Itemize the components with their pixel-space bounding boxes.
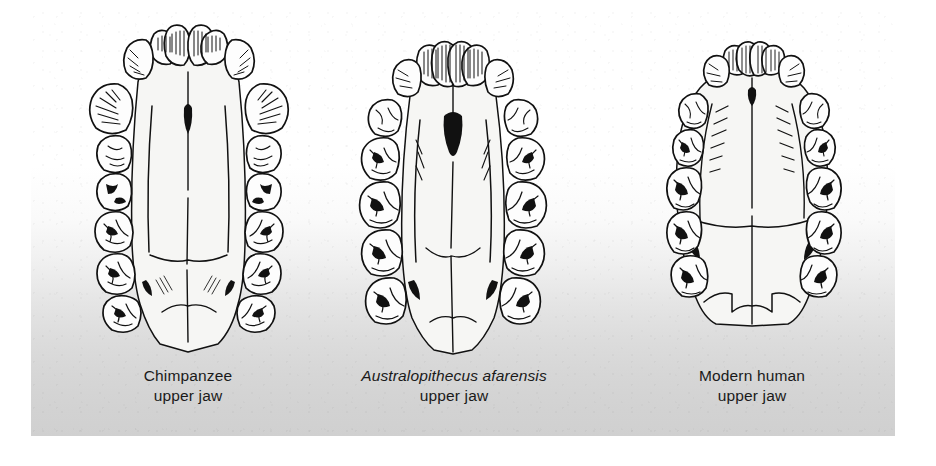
caption-australopithecus-afarensis-secondary: upper jaw: [318, 386, 590, 406]
jaw-illustration-chimpanzee: [72, 12, 304, 357]
caption-chimpanzee-primary: Chimpanzee: [78, 366, 298, 386]
figure-root: Chimpanzee upper jaw Australopithecus af…: [0, 0, 936, 466]
caption-modern-human-primary: Modern human: [640, 366, 864, 386]
caption-modern-human: Modern human upper jaw: [640, 366, 864, 405]
caption-chimpanzee: Chimpanzee upper jaw: [78, 366, 298, 405]
caption-chimpanzee-secondary: upper jaw: [78, 386, 298, 406]
jaw-illustration-modern-human: [632, 12, 872, 357]
jaw-illustration-australopithecus-afarensis: [330, 12, 576, 357]
caption-australopithecus-afarensis: Australopithecus afarensis upper jaw: [318, 366, 590, 405]
caption-modern-human-secondary: upper jaw: [640, 386, 864, 406]
caption-australopithecus-afarensis-primary: Australopithecus afarensis: [318, 366, 590, 386]
